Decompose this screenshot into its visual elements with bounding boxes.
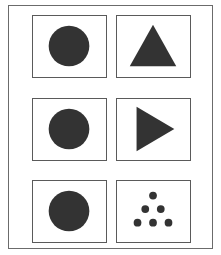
cell-r3-c2 (116, 180, 191, 243)
triangle-up-icon (117, 16, 190, 77)
circle-icon (33, 99, 106, 160)
cell-r1-c1 (32, 15, 107, 78)
cell-r2-c2 (116, 98, 191, 161)
cell-r2-c1 (32, 98, 107, 161)
triangle-right-icon (117, 99, 190, 160)
cell-r3-c1 (32, 180, 107, 243)
circle-icon (33, 181, 106, 242)
cell-r1-c2 (116, 15, 191, 78)
dot-triangle-icon (117, 181, 190, 242)
circle-icon (33, 16, 106, 77)
